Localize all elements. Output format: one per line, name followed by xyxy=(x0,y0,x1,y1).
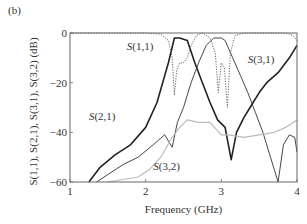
x-tick-label: 1 xyxy=(67,185,73,197)
x-tick-label: 3 xyxy=(219,185,225,197)
series-labels: S(2,1)S(3,1)S(3,2)S(1,1) xyxy=(89,40,275,172)
y-axis-title: S(1,1), S(2,1), S(3,1), S(3,2) (dB) xyxy=(27,37,40,186)
chart: 12340−20−40−60 S(2,1)S(3,1)S(3,2)S(1,1) … xyxy=(0,0,307,224)
series-label-S32: S(3,2) xyxy=(153,160,180,173)
series-label-S11: S(1,1) xyxy=(127,40,154,53)
series-label-S31: S(3,1) xyxy=(248,53,275,66)
series-line-S11 xyxy=(70,33,297,108)
x-tick-label: 4 xyxy=(294,185,300,197)
y-tick-label: −60 xyxy=(50,176,68,188)
y-tick-label: −40 xyxy=(50,126,68,138)
x-axis-title: Frequency (GHz) xyxy=(145,203,223,216)
x-tick-label: 2 xyxy=(143,185,149,197)
y-tick-label: 0 xyxy=(62,27,68,39)
series-label-S21: S(2,1) xyxy=(89,110,116,123)
y-tick-label: −20 xyxy=(50,77,68,89)
